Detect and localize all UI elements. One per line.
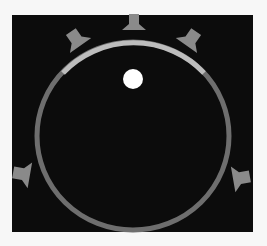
bumper-upper-right-icon: [176, 24, 207, 53]
game-scene[interactable]: [0, 0, 267, 246]
ball: [123, 69, 143, 89]
bumper-right-icon: [231, 164, 252, 193]
bumper-left-icon: [11, 160, 32, 189]
bumper-top-icon: [122, 14, 146, 30]
arena-highlight-arc: [63, 43, 204, 73]
bumper-upper-left-icon: [60, 24, 91, 53]
